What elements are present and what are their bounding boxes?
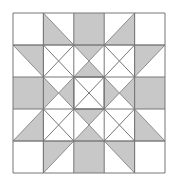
gray-triangle: [74, 125, 104, 141]
gray-triangle: [74, 61, 104, 77]
gray-triangle: [43, 141, 73, 173]
gray-triangle: [135, 109, 165, 141]
gray-square: [74, 13, 104, 45]
gray-square: [74, 141, 104, 173]
gray-triangle: [104, 141, 134, 173]
gray-square: [13, 77, 43, 109]
gray-triangle: [104, 77, 119, 109]
gray-triangle: [43, 77, 58, 109]
quilt-block-diagram: [0, 0, 176, 183]
gray-triangle: [135, 45, 165, 77]
gray-triangle: [74, 45, 104, 61]
gray-triangle: [13, 109, 43, 141]
gray-triangle: [59, 77, 74, 109]
gray-square: [135, 77, 165, 109]
gray-triangle: [74, 109, 104, 125]
gray-triangle: [13, 45, 43, 77]
gray-triangle: [119, 77, 134, 109]
gray-triangle: [104, 13, 134, 45]
gray-triangle: [43, 13, 73, 45]
